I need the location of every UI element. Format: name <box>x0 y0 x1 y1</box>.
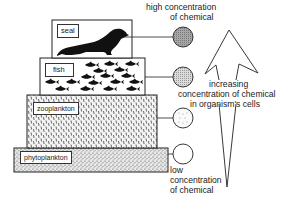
seal-label: seal <box>57 24 79 38</box>
high-concentration-line2: of chemical <box>170 13 213 23</box>
zooplankton-label: zooplankton <box>33 102 79 115</box>
fish-label: fish <box>45 63 74 77</box>
concentration-circle-fish <box>173 67 193 87</box>
concentration-circle-seal <box>173 27 193 47</box>
phytoplankton-label: phytoplankton <box>20 151 72 164</box>
concentration-circle-zooplankton <box>173 108 193 128</box>
low-concentration-line3: of chemical <box>170 186 213 196</box>
arrow-label-line3: in organism's cells <box>190 100 260 110</box>
concentration-circle-phytoplankton <box>173 144 193 164</box>
